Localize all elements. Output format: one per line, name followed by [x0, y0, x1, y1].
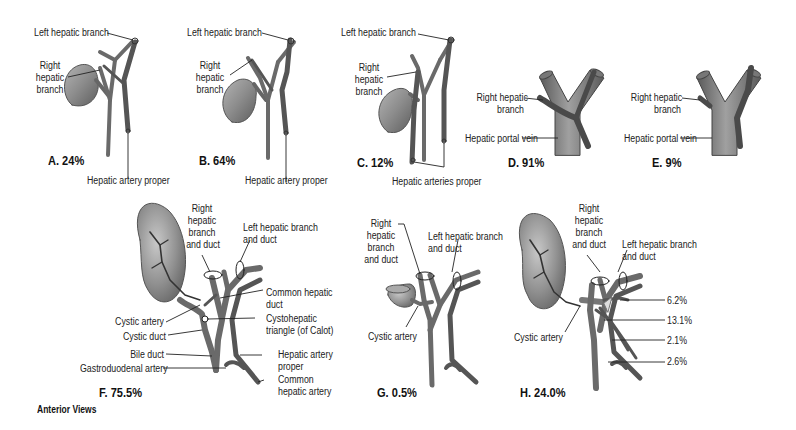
panel-f-cystic-duct-label: Cystic duct: [104, 331, 166, 343]
panel-f-hepatic-artery-proper-label: Hepatic artery proper: [278, 349, 333, 373]
panel-f-left-hepatic-duct-label: Left hepatic branch and duct: [243, 222, 318, 246]
panel-a-caption: A. 24%: [48, 153, 84, 168]
panel-g-right-hepatic-duct-label: Right hepatic branch and duct: [364, 218, 397, 266]
panel-d-portal-label: Hepatic portal vein: [465, 133, 538, 145]
panel-c-left-hepatic-label: Left hepatic branch: [341, 27, 416, 39]
panel-h-pct-2-1: 2.1%: [667, 335, 687, 347]
panel-a-artery-label: Hepatic artery proper: [87, 175, 170, 187]
panel-a-left-hepatic-label: Left hepatic branch: [34, 27, 109, 39]
panel-h-cystic-artery-label: Cystic artery: [514, 332, 563, 344]
panel-c-art: [379, 37, 454, 162]
panel-a-art: [64, 38, 138, 155]
panel-c-artery-label: Hepatic arteries proper: [392, 176, 482, 188]
panel-d-caption: D. 91%: [508, 155, 544, 170]
panel-h-right-hepatic-duct-label: Right hepatic branch and duct: [572, 203, 605, 251]
panel-f-gastroduodenal-label: Gastroduodenal artery: [80, 363, 168, 375]
panel-f-common-hepatic-duct-label: Common hepatic duct: [266, 287, 333, 311]
panel-f-cystohepatic-label: Cystohepatic triangle (of Calot): [266, 313, 333, 337]
view-note: Anterior Views: [37, 404, 96, 415]
panel-f-caption: F. 75.5%: [99, 385, 142, 400]
panel-f-common-hepatic-artery-label: Common hepatic artery: [278, 374, 331, 398]
panel-f-bile-duct-label: Bile duct: [104, 349, 164, 361]
panel-b-left-hepatic-label: Left hepatic branch: [187, 27, 262, 39]
panel-b-caption: B. 64%: [199, 153, 235, 168]
panel-e-portal-label: Hepatic portal vein: [624, 133, 697, 145]
panel-b-art: [223, 38, 294, 158]
panel-f-cystic-artery-label: Cystic artery: [104, 316, 164, 328]
panel-h-caption: H. 24.0%: [520, 385, 565, 400]
panel-h-pct-2-6: 2.6%: [667, 356, 687, 368]
panel-g-left-hepatic-duct-label: Left hepatic branch and duct: [428, 231, 503, 255]
panel-a-right-hepatic-label: Right hepatic branch: [35, 60, 65, 96]
panel-f-right-hepatic-duct-label: Right hepatic branch and duct: [186, 203, 218, 251]
panel-g-cystic-artery-label: Cystic artery: [368, 331, 417, 343]
panel-e-caption: E. 9%: [652, 155, 681, 170]
panel-h-pct-13-1: 13.1%: [667, 315, 692, 327]
panel-b-right-hepatic-label: Right hepatic branch: [195, 60, 225, 96]
panel-g-caption: G. 0.5%: [377, 385, 417, 400]
panel-c-right-hepatic-label: Right hepatic branch: [354, 62, 384, 98]
panel-e-art: [695, 67, 761, 155]
panel-g-art: [386, 272, 478, 385]
panel-h-pct-6-2: 6.2%: [667, 295, 687, 307]
panel-d-art: [538, 67, 604, 155]
panel-d-right-hepatic-label: Right hepatic branch: [476, 92, 524, 116]
panel-b-artery-label: Hepatic artery proper: [245, 175, 328, 187]
panel-e-right-hepatic-label: Right hepatic branch: [631, 92, 681, 116]
panel-c-caption: C. 12%: [357, 155, 393, 170]
panel-h-left-hepatic-duct-label: Left hepatic branch and duct: [622, 239, 697, 263]
